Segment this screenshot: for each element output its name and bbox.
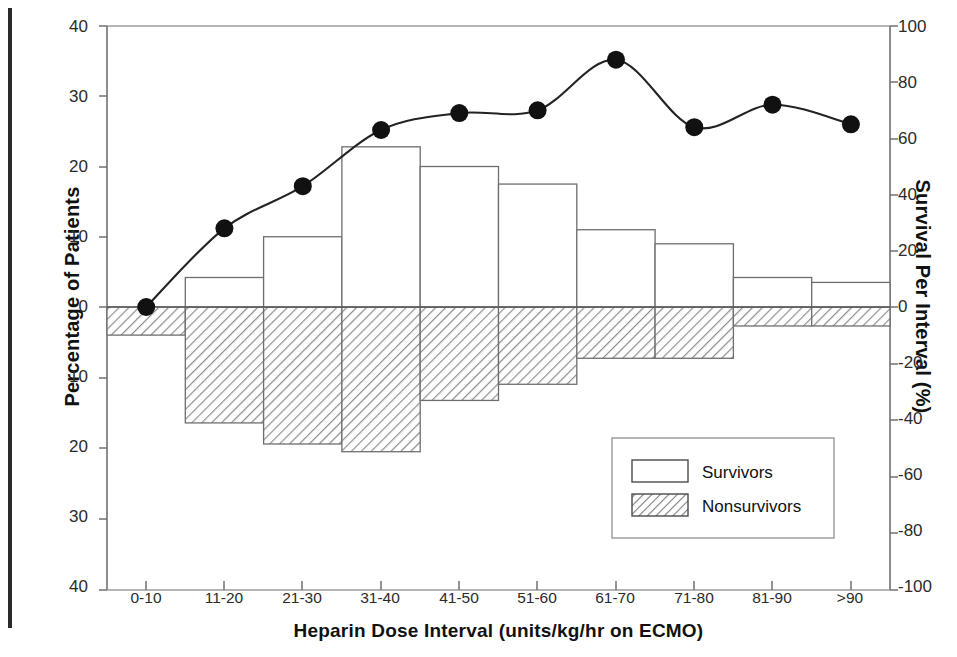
legend-swatch-survivors (632, 460, 688, 482)
bar-nonsurvivors (264, 307, 342, 444)
bar-nonsurvivors (185, 307, 263, 423)
survival-marker (842, 115, 860, 133)
bar-nonsurvivors (733, 307, 811, 326)
legend-swatch-nonsurvivors (632, 494, 688, 516)
bar-nonsurvivors (342, 307, 420, 452)
bar-survivors (264, 237, 342, 307)
y-axis-ticks-left (99, 26, 107, 590)
bar-nonsurvivors (812, 307, 890, 326)
bar-survivors (185, 277, 263, 307)
bar-survivors (812, 282, 890, 307)
survival-marker (294, 177, 312, 195)
bar-survivors (577, 230, 655, 307)
y-axis-ticks-right (890, 26, 898, 590)
chart-legend: Survivors Nonsurvivors (612, 438, 834, 538)
legend-label-survivors: Survivors (702, 463, 773, 482)
survival-marker (450, 104, 468, 122)
bar-nonsurvivors (577, 307, 655, 358)
bars-survivors (185, 147, 890, 307)
plot-area: Survivors Nonsurvivors (0, 0, 957, 657)
bar-nonsurvivors (655, 307, 733, 358)
bar-survivors (733, 277, 811, 307)
bar-survivors (342, 147, 420, 307)
survival-marker (607, 51, 625, 69)
survival-marker (685, 118, 703, 136)
chart-figure: Percentage of Patients Survival Per Inte… (0, 0, 957, 657)
bars-nonsurvivors (107, 307, 890, 452)
survival-marker (764, 96, 782, 114)
legend-label-nonsurvivors: Nonsurvivors (702, 497, 801, 516)
survival-marker (372, 121, 390, 139)
survival-marker (215, 219, 233, 237)
legend-box (612, 438, 834, 538)
bar-nonsurvivors (420, 307, 498, 400)
bar-survivors (655, 244, 733, 307)
survival-marker (529, 101, 547, 119)
bar-nonsurvivors (499, 307, 577, 384)
survival-marker (137, 298, 155, 316)
bar-survivors (499, 184, 577, 307)
bar-survivors (420, 167, 498, 308)
x-axis-ticks (146, 581, 851, 590)
